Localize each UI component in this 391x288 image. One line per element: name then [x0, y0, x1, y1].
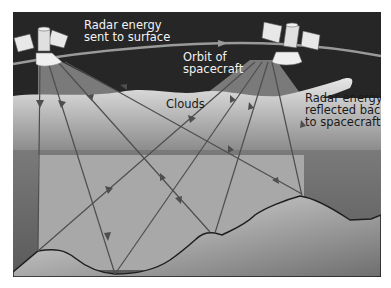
label-orbit-line2: spacecraft: [183, 62, 244, 76]
label-radar-sent-line2: sent to surface: [84, 30, 170, 44]
label-clouds: Clouds: [166, 97, 205, 111]
radar-diagram: Radar energy sent to surface Orbit of sp…: [0, 0, 391, 288]
label-reflected-line3: to spacecraft: [305, 115, 381, 129]
